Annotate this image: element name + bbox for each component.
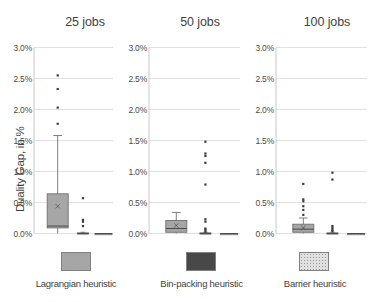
outlier-point — [302, 214, 304, 216]
panel-0 — [34, 48, 113, 235]
legend-swatch-lagrangian — [61, 252, 91, 271]
outlier-point — [204, 155, 206, 157]
boxplot-chart: Duality Gap, in % 25 jobs 50 jobs 100 jo… — [0, 0, 392, 302]
outlier-point — [331, 225, 333, 227]
outlier-point — [204, 183, 206, 185]
outlier-point — [204, 218, 206, 220]
boxplot-binpacking — [200, 141, 211, 234]
outlier-point — [302, 205, 304, 207]
outlier-point — [82, 225, 84, 227]
panel-1 — [149, 48, 240, 235]
boxplot-lagrangian — [166, 212, 187, 233]
outlier-point — [204, 221, 206, 223]
legend-label-barrier: Barrier heuristic — [271, 278, 359, 289]
boxplot-barrier — [348, 234, 365, 235]
outlier-point — [302, 183, 304, 185]
outlier-point — [57, 123, 59, 125]
outlier-point — [331, 172, 333, 174]
outlier-point — [57, 107, 59, 109]
boxplot-lagrangian — [293, 183, 314, 234]
boxplot-barrier — [221, 234, 238, 235]
boxplot-barrier — [95, 234, 112, 235]
outlier-point — [204, 162, 206, 164]
legend-swatch-binpacking — [186, 252, 216, 271]
legend-label-lagrangian: Lagrangian heuristic — [21, 278, 131, 289]
outlier-point — [331, 178, 333, 180]
legend-swatch-barrier — [299, 252, 329, 271]
outlier-point — [302, 209, 304, 211]
outlier-point — [57, 74, 59, 76]
box — [47, 194, 68, 228]
box — [166, 220, 187, 232]
outlier-point — [82, 219, 84, 221]
outlier-point — [302, 198, 304, 200]
outlier-point — [57, 88, 59, 90]
panel-2 — [276, 48, 367, 235]
boxplot-lagrangian — [47, 74, 68, 233]
outlier-point — [204, 141, 206, 143]
legend-label-binpacking: Bin-packing heuristic — [145, 278, 258, 289]
outlier-point — [204, 152, 206, 154]
outlier-point — [82, 197, 84, 199]
outlier-point — [204, 227, 206, 229]
